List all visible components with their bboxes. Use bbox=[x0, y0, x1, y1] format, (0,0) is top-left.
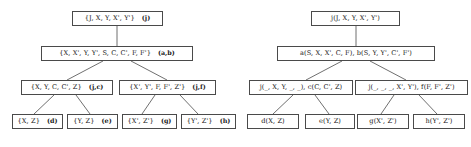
edge-left-l3left-leaf1 bbox=[34, 95, 54, 114]
node-label: j(_, X, Y, _, _), c(C, C', Z) bbox=[260, 84, 343, 91]
edge-right-l3left-leaf2 bbox=[315, 95, 329, 114]
right-tree-level3-left-node[interactable]: j(_, X, Y, _, _), c(C, C', Z) bbox=[249, 80, 353, 95]
edge-right-l3right-leaf3 bbox=[381, 95, 394, 114]
left-tree-leaf-d[interactable]: {X, Z} (d) bbox=[12, 114, 63, 129]
node-label: {X, X', Y, Y', S, C, C', F, F'} bbox=[59, 50, 151, 57]
node-tag: (a,b) bbox=[158, 50, 175, 56]
node-label: d(X, Z) bbox=[261, 118, 285, 125]
left-tree-leaf-g[interactable]: {X', Z'} (g) bbox=[122, 114, 177, 129]
node-label: {X', Y', F, F', Z'} bbox=[129, 84, 185, 91]
node-tag: (j) bbox=[142, 15, 150, 21]
node-label: {X, Y, C, C', Z} bbox=[31, 84, 82, 91]
left-tree-leaf-h[interactable]: {Y', Z'} (h) bbox=[181, 114, 236, 129]
right-tree-level2-node[interactable]: a(S, X, X', C, F), b(S, Y, Y', C', F') bbox=[277, 46, 435, 61]
left-tree-level3-right-node[interactable]: {X', Y', F, F', Z'} (j,f) bbox=[119, 80, 216, 95]
node-tag: (d) bbox=[47, 118, 58, 124]
node-label: a(S, X, X', C, F), b(S, Y, Y', C', F') bbox=[300, 50, 412, 57]
edge-left-l3right-leaf3 bbox=[142, 95, 155, 114]
right-tree-leaf-d[interactable]: d(X, Z) bbox=[247, 114, 299, 129]
node-label: e(Y, Z) bbox=[319, 118, 341, 125]
right-tree-leaf-h[interactable]: h(Y', Z') bbox=[413, 114, 465, 129]
edge-right-l3left-leaf1 bbox=[273, 95, 293, 114]
node-label: j(_, _, _, X', Y'), f(F, F', Z') bbox=[368, 84, 454, 91]
edge-right-l2-l3left bbox=[306, 61, 342, 80]
node-label: j(J, X, Y, X', Y') bbox=[331, 15, 380, 22]
node-label: {Y, Z} bbox=[73, 118, 94, 125]
edge-left-l3left-leaf2 bbox=[76, 95, 90, 114]
node-label: {X', Z'} bbox=[128, 118, 154, 125]
edge-left-l3right-leaf4 bbox=[180, 95, 198, 114]
right-tree-level3-right-node[interactable]: j(_, _, _, X', Y'), f(F, F', Z') bbox=[355, 80, 468, 95]
edge-left-l2-l3left bbox=[67, 61, 103, 80]
node-label: {Y', Z'} bbox=[187, 118, 213, 125]
node-tag: (g) bbox=[161, 118, 172, 124]
left-tree-level3-left-node[interactable]: {X, Y, C, C', Z} (j,c) bbox=[21, 80, 113, 95]
left-tree-root-node[interactable]: {J, X, Y, X', Y'} (j) bbox=[72, 11, 163, 26]
node-label: {J, X, Y, X', Y'} bbox=[85, 15, 135, 22]
node-label: {X, Z} bbox=[18, 118, 40, 125]
edge-left-l2-l3right bbox=[131, 61, 167, 80]
node-tag: (j,f) bbox=[192, 84, 205, 90]
node-tag: (h) bbox=[220, 118, 231, 124]
left-tree-level2-node[interactable]: {X, X', Y, Y', S, C, C', F, F'} (a,b) bbox=[41, 46, 193, 61]
edge-right-l3right-leaf4 bbox=[419, 95, 437, 114]
node-label: h(Y', Z') bbox=[425, 118, 452, 125]
right-tree-root-node[interactable]: j(J, X, Y, X', Y') bbox=[311, 11, 400, 26]
figure-canvas: {J, X, Y, X', Y'} (j) {X, X', Y, Y', S, … bbox=[0, 0, 471, 147]
right-tree-leaf-e[interactable]: e(Y, Z) bbox=[305, 114, 355, 129]
right-tree-leaf-g[interactable]: g(X', Z') bbox=[357, 114, 409, 129]
edge-right-l2-l3right bbox=[370, 61, 406, 80]
left-tree-leaf-e[interactable]: {Y, Z} (e) bbox=[67, 114, 118, 129]
node-tag: (j,c) bbox=[89, 84, 103, 90]
node-label: g(X', Z') bbox=[369, 118, 396, 125]
node-tag: (e) bbox=[102, 118, 112, 124]
